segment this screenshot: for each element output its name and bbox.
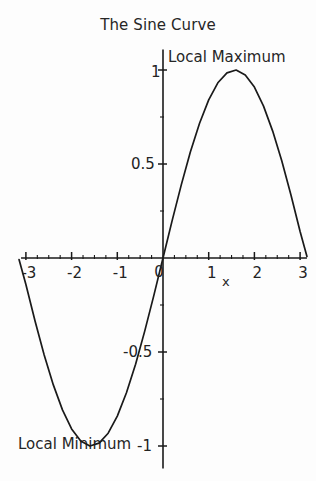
y-tick-label: -0.5 [123,345,152,360]
x-tick-label: 0 [154,265,164,280]
x-tick-label: -1 [113,266,128,281]
y-tick-label: -1 [137,439,152,454]
x-tick-label: -2 [67,266,82,281]
x-tick-label: -3 [21,266,36,281]
x-tick-label: 3 [298,266,308,281]
x-tick-label: 1 [207,266,217,281]
x-tick-label: 2 [253,266,263,281]
sine-curve-figure: The Sine Curve Local Maximum Local Minim… [0,0,316,481]
y-tick-label: 0.5 [131,157,155,172]
y-tick-label: 1 [151,65,161,80]
